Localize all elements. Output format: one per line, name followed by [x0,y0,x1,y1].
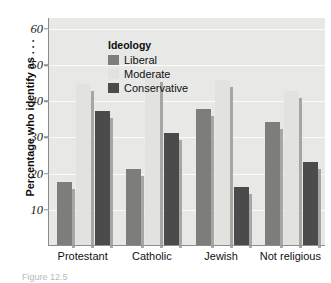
bar-shadow [249,194,252,248]
bar-shadow [318,169,321,248]
bar-body [164,133,179,245]
bar-shadow [110,118,113,248]
figure-caption: Figure 12.5 [22,272,68,282]
y-tick-label: 10 [31,202,44,217]
legend-label-liberal: Liberal [124,54,157,66]
bar-catholic-liberal [126,169,141,245]
x-tick-label-jewish: Jewish [204,250,238,262]
legend-label-moderate: Moderate [124,68,170,80]
bar-body [265,122,280,245]
bar-shadow [160,82,163,248]
bar-shadow [299,98,302,248]
legend-title: Ideology [108,39,188,51]
y-tick-label: 40 [31,94,44,109]
bar-jewish-conservative [234,187,249,245]
legend-item-moderate: Moderate [108,67,188,80]
legend-swatch-moderate [108,69,119,79]
bar-body [234,187,249,245]
y-tick-label: 50 [31,58,44,73]
bar-body [126,169,141,245]
bar-body [95,111,110,245]
bar-not-religious-liberal [265,122,280,245]
bar-body [303,162,318,245]
bar-body [215,80,230,245]
legend-item-conservative: Conservative [108,81,188,94]
bar-body [76,84,91,245]
bar-catholic-moderate [145,75,160,245]
y-tick-label: 30 [31,130,44,145]
legend-item-liberal: Liberal [108,53,188,66]
bar-jewish-moderate [215,80,230,245]
bar-protestant-liberal [57,182,72,245]
x-tick-label-catholic: Catholic [132,250,172,262]
bar-shadow [280,129,283,248]
legend-swatch-conservative [108,83,119,93]
bar-shadow [211,116,214,248]
bar-not-religious-moderate [284,91,299,245]
bar-group [196,18,249,245]
bar-catholic-conservative [164,133,179,245]
bar-shadow [230,87,233,248]
bar-body [196,109,211,245]
bar-not-religious-conservative [303,162,318,245]
x-tick-label-not-religious: Not religious [260,250,321,262]
x-axis-labels: ProtestantCatholicJewishNot religious [48,250,325,268]
x-tick-label-protestant: Protestant [58,250,108,262]
bar-jewish-liberal [196,109,211,245]
bar-shadow [179,140,182,248]
y-axis-ticks: 102030405060 [0,18,48,246]
y-tick-label: 20 [31,166,44,181]
y-tick-label: 60 [31,21,44,36]
bar-body [57,182,72,245]
figure-container: Percentage who identify as . . . 1020304… [0,0,331,283]
bar-body [284,91,299,245]
bar-shadow [72,189,75,248]
bar-shadow [91,91,94,248]
legend-swatch-liberal [108,55,119,65]
legend-label-conservative: Conservative [124,82,188,94]
bar-group [57,18,110,245]
bar-body [145,75,160,245]
bar-shadow [141,176,144,248]
bar-protestant-conservative [95,111,110,245]
bar-protestant-moderate [76,84,91,245]
plot-area: Ideology Liberal Moderate Conservative [48,18,325,246]
chart-legend: Ideology Liberal Moderate Conservative [105,38,192,97]
bar-group [265,18,318,245]
